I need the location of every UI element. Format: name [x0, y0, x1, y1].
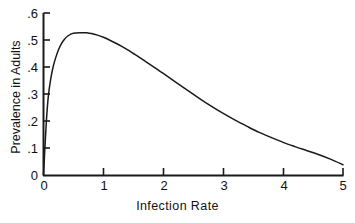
x-tick-marks — [104, 168, 344, 176]
x-tick-label-4: 4 — [274, 178, 294, 193]
x-tick-label-5: 5 — [333, 178, 353, 193]
x-tick-label-1: 1 — [94, 178, 114, 193]
y-axis-title: Prevalence in Adults — [9, 17, 23, 177]
x-tick-label-3: 3 — [214, 178, 234, 193]
x-tick-label-0: 0 — [34, 178, 54, 193]
x-axis-title: Infection Rate — [0, 199, 355, 213]
data-series-line — [44, 33, 344, 175]
chart-figure: .6 .5 .4 .3 .2 .1 0 0 1 2 3 4 5 Prevalen… — [0, 0, 355, 223]
x-tick-label-2: 2 — [154, 178, 174, 193]
